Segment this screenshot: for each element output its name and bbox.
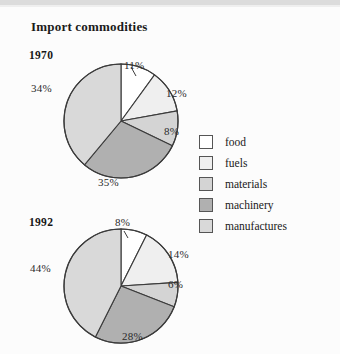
- pie-1970-label-fuels: 12%: [166, 87, 187, 99]
- pie-1992-label-manufactures: 44%: [30, 262, 51, 274]
- chart-year-label-1970: 1970: [29, 49, 53, 61]
- pie-1970-svg: [62, 62, 180, 180]
- legend-swatch-food-icon: [199, 135, 213, 149]
- pie-1970-label-materials: 8%: [164, 125, 179, 137]
- legend-item-manufactures[interactable]: manufactures: [199, 215, 287, 236]
- pie-1970-label-manufactures: 34%: [31, 82, 52, 94]
- legend-item-food[interactable]: food: [199, 131, 287, 152]
- pie-1970-label-food: 11%: [124, 59, 144, 71]
- pie-chart-1970: [62, 62, 180, 180]
- legend-swatch-manufactures-icon: [199, 219, 213, 233]
- legend: food fuels materials machinery manufactu…: [199, 131, 287, 236]
- pie-1970-label-machinery: 35%: [98, 176, 119, 188]
- pie-1992-label-machinery: 28%: [122, 330, 143, 342]
- legend-label-manufactures: manufactures: [225, 220, 287, 232]
- legend-label-materials: materials: [225, 178, 267, 190]
- page-title: Import commodities: [31, 19, 148, 35]
- legend-swatch-machinery-icon: [199, 198, 213, 212]
- pie-chart-1992: [62, 227, 180, 345]
- pie-1992-label-fuels: 14%: [168, 248, 189, 260]
- legend-item-machinery[interactable]: machinery: [199, 194, 287, 215]
- legend-item-materials[interactable]: materials: [199, 173, 287, 194]
- legend-swatch-fuels-icon: [199, 156, 213, 170]
- legend-label-fuels: fuels: [225, 157, 247, 169]
- pie-1992-label-food: 8%: [115, 216, 130, 228]
- legend-label-machinery: machinery: [225, 199, 274, 211]
- figure-canvas: Import commodities 1970 11% 12% 8% 35% 3…: [0, 0, 340, 354]
- legend-item-fuels[interactable]: fuels: [199, 152, 287, 173]
- pie-1992-label-materials: 6%: [168, 278, 183, 290]
- scan-edge-band-soft: [0, 5, 340, 7]
- pie-1992-svg: [62, 227, 180, 345]
- legend-swatch-materials-icon: [199, 177, 213, 191]
- legend-label-food: food: [225, 136, 246, 148]
- chart-year-label-1992: 1992: [29, 216, 53, 228]
